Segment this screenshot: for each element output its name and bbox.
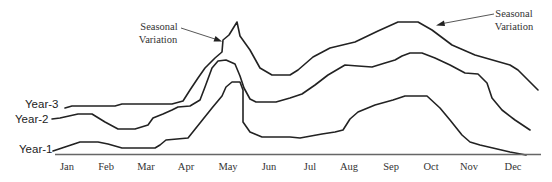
annotation-left-line-1: Seasonal [140,21,177,32]
arrowhead-icon [214,36,223,42]
series-year-1-line [53,82,526,155]
annotation-seasonal-variation-right: Seasonal Variation [436,8,534,32]
tick-label-jul: Jul [304,161,316,172]
tick-label-may: May [218,161,238,172]
plot-area [52,22,538,155]
series-label-year-3: Year-3 [25,98,58,110]
tick-label-mar: Mar [137,161,155,172]
tick-label-feb: Feb [98,161,114,172]
annotation-right-arrow-line [440,14,494,24]
series-year-3-line [65,22,538,108]
annotation-left-line-2: Variation [139,34,178,45]
tick-label-sep: Sep [383,161,399,172]
tick-label-aug: Aug [340,161,359,172]
tick-label-oct: Oct [423,161,438,172]
annotation-seasonal-variation-left: Seasonal Variation [139,21,222,45]
tick-label-jun: Jun [262,161,277,172]
x-axis-tick-labels: Jan Feb Mar Apr May Jun Jul Aug Sep Oct … [60,161,522,172]
tick-label-nov: Nov [460,161,479,172]
series-year-2-line [52,53,530,130]
tick-label-apr: Apr [178,161,195,172]
series-label-year-1: Year-1 [19,143,52,155]
tick-label-jan: Jan [60,161,75,172]
seasonal-variation-chart: Year-3 Year-2 Year-1 Jan Feb Mar Apr May… [0,0,552,182]
arrowhead-icon [436,21,445,27]
series-label-year-2: Year-2 [15,113,48,125]
annotation-right-line-2: Variation [495,21,534,32]
series-labels: Year-3 Year-2 Year-1 [15,98,58,155]
tick-label-dec: Dec [505,161,522,172]
annotation-right-line-1: Seasonal [495,8,532,19]
annotation-left-arrow-line [181,28,218,40]
